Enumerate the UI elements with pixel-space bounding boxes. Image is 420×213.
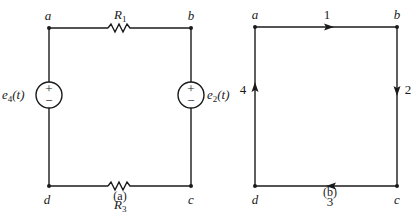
node-b-dot (189, 26, 193, 30)
node-a-dot (47, 26, 51, 30)
source-e4-label: e4(t) (2, 87, 25, 104)
node-a-label: a (45, 8, 52, 23)
node-c-dot (189, 184, 193, 188)
e4-minus-sign: − (45, 93, 52, 108)
node-c-dot (395, 184, 399, 188)
node-b-label: b (394, 7, 401, 22)
node-c-label: c (188, 192, 194, 207)
node-d-dot (47, 184, 51, 188)
caption-b: (b) (323, 185, 337, 199)
node-d-label: d (44, 192, 51, 207)
node-b-dot (395, 25, 399, 29)
graph-diagram-b: a b c d 1 2 3 4 (b) (240, 7, 412, 209)
circuit-diagram-a: + − + − a b c d R1 R3 e4(t) e2(t) (2, 7, 230, 213)
node-a-label: a (252, 7, 259, 22)
edge-2-label: 2 (405, 82, 412, 97)
source-e2-label: e2(t) (207, 87, 230, 104)
caption-a: (a) (113, 189, 126, 203)
node-d-dot (253, 184, 257, 188)
node-b-label: b (188, 8, 195, 23)
resistor-r1-icon (108, 24, 131, 32)
resistor-r1-label: R1 (113, 7, 126, 24)
edge-1-label: 1 (324, 7, 331, 22)
node-c-label: c (394, 192, 400, 207)
node-a-dot (253, 25, 257, 29)
e2-minus-sign: − (187, 93, 194, 108)
node-d-label: d (252, 192, 259, 207)
edge-4-label: 4 (240, 82, 247, 97)
